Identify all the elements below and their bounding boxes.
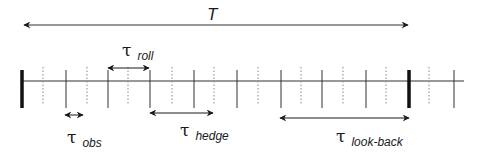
tau-lookback-span: τ look-back	[280, 118, 409, 149]
tau-roll-span: τ roll	[108, 40, 154, 68]
obs-subscript: obs	[82, 136, 101, 150]
tau-obs-span: τ obs	[65, 115, 102, 150]
time-axis	[22, 67, 464, 108]
tau-lookback-label: τ look-back	[336, 126, 404, 149]
timeline-diagram: T	[0, 0, 483, 161]
tau-obs-label: τ obs	[67, 127, 102, 150]
roll-subscript: roll	[137, 49, 153, 63]
tau-symbol: τ	[122, 40, 131, 60]
tau-hedge-label: τ hedge	[180, 120, 229, 143]
tau-hedge-span: τ hedge	[150, 113, 229, 143]
total-period-label: T	[207, 5, 219, 24]
tau-symbol: τ	[180, 120, 189, 140]
tau-symbol: τ	[67, 127, 76, 147]
hedge-subscript: hedge	[195, 129, 229, 143]
tau-symbol: τ	[336, 126, 345, 146]
total-period-span: T	[24, 5, 408, 25]
solid-ticks	[66, 70, 454, 108]
tau-roll-label: τ roll	[122, 40, 154, 63]
lookback-subscript: look-back	[351, 135, 403, 149]
dotted-ticks	[43, 67, 429, 105]
boundary-ticks	[22, 70, 409, 108]
